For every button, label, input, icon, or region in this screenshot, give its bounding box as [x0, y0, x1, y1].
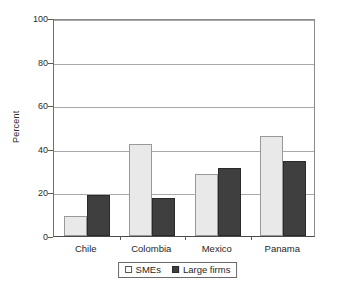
- bar-panama-large-firms: [283, 161, 306, 236]
- legend-label: Large firms: [183, 264, 231, 275]
- legend-swatch-icon: [125, 266, 132, 273]
- bar-group: [120, 20, 186, 236]
- bar-panama-smes: [260, 136, 283, 236]
- y-axis-tick-mark: [48, 237, 53, 238]
- x-axis-tick-label-chile: Chile: [75, 243, 97, 254]
- legend-item-smes[interactable]: SMEs: [125, 264, 161, 275]
- y-axis-tick-label: 20: [22, 188, 48, 198]
- bar-mexico-smes: [195, 174, 218, 236]
- bar-group: [251, 20, 317, 236]
- bar-colombia-smes: [129, 144, 152, 236]
- legend-swatch-icon: [172, 266, 179, 273]
- x-axis-tick-label-panama: Panama: [265, 243, 300, 254]
- bar-colombia-large-firms: [152, 198, 175, 236]
- y-axis-tick-label: 40: [22, 145, 48, 155]
- bar-chart-figure: Percent 020406080100 ChileColombiaMexico…: [0, 0, 355, 289]
- y-axis-tick-label: 80: [22, 58, 48, 68]
- legend-item-large-firms[interactable]: Large firms: [172, 264, 231, 275]
- x-axis-tick-mark: [185, 236, 186, 240]
- x-axis-tick-mark: [120, 236, 121, 240]
- legend-label: SMEs: [136, 264, 161, 275]
- y-axis-tick-label: 0: [22, 232, 48, 242]
- bar-chile-smes: [64, 216, 87, 236]
- x-axis-tick-label-mexico: Mexico: [202, 243, 232, 254]
- y-axis-tick-label: 100: [22, 14, 48, 24]
- y-axis-title: Percent: [9, 92, 23, 162]
- plot-area: [53, 19, 315, 237]
- bar-group: [185, 20, 251, 236]
- bar-group: [54, 20, 120, 236]
- bars-layer: [54, 20, 314, 236]
- x-axis-tick-mark: [251, 236, 252, 240]
- y-axis-tick-label: 60: [22, 101, 48, 111]
- chart-legend: SMEsLarge firms: [118, 262, 238, 278]
- x-axis-tick-label-colombia: Colombia: [131, 243, 171, 254]
- bar-chile-large-firms: [87, 195, 110, 236]
- bar-mexico-large-firms: [218, 168, 241, 236]
